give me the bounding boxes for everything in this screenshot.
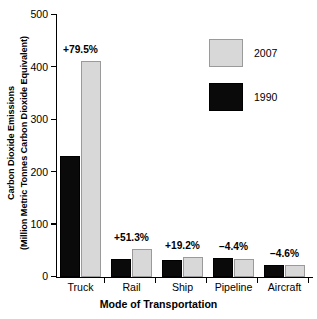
y-axis-tick: 400 <box>51 66 57 67</box>
percent-change-label: −4.6% <box>270 248 299 259</box>
bar-2007 <box>132 249 152 277</box>
x-axis-tick <box>104 277 105 283</box>
y-axis-tick: 100 <box>51 223 57 224</box>
y-axis-tick: 200 <box>51 171 57 172</box>
bar-1990 <box>264 265 284 277</box>
bar-2007 <box>285 265 305 277</box>
x-axis-tick <box>308 277 309 283</box>
y-axis-title-line2: (Million Metric Tonnes Carbon Dioxide Eq… <box>17 36 30 250</box>
bar-1990 <box>111 259 131 277</box>
bar-1990 <box>60 156 80 277</box>
bar-1990 <box>213 258 233 277</box>
percent-change-label: +79.5% <box>63 44 98 55</box>
y-axis-title-line1: Carbon Dioxide Emissions <box>5 36 18 250</box>
bar-2007 <box>183 257 203 277</box>
x-axis-category-label: Aircraft <box>268 281 302 293</box>
x-axis-title: Mode of Transportation <box>0 298 317 310</box>
bar-2007 <box>234 259 254 277</box>
bar-2007 <box>81 61 101 277</box>
y-axis-tick-label: 500 <box>30 8 48 20</box>
y-axis-tick-label: 100 <box>30 218 48 230</box>
x-axis-category-label: Pipeline <box>215 281 253 293</box>
legend-item-1990: 1990 <box>209 83 309 113</box>
y-axis-tick-label: 400 <box>30 61 48 73</box>
y-axis-tick: 300 <box>51 119 57 120</box>
x-axis-tick <box>206 277 207 283</box>
bar-1990 <box>162 260 182 277</box>
legend-item-2007: 2007 <box>209 39 309 69</box>
y-axis-title: Carbon Dioxide Emissions (Million Metric… <box>0 0 34 285</box>
percent-change-label: −4.4% <box>219 241 248 252</box>
percent-change-label: +51.3% <box>114 232 149 243</box>
y-axis-tick-label: 300 <box>30 113 48 125</box>
legend-swatch-2007 <box>209 39 243 67</box>
y-axis-tick: 500 <box>51 14 57 15</box>
legend: 2007 1990 <box>209 39 309 127</box>
x-axis-line <box>56 277 313 278</box>
x-axis-category-label: Ship <box>172 281 193 293</box>
legend-label-1990: 1990 <box>254 91 277 103</box>
co2-emissions-bar-chart: Carbon Dioxide Emissions (Million Metric… <box>0 0 317 319</box>
x-axis-tick <box>257 277 258 283</box>
y-axis-tick-label: 0 <box>42 270 48 282</box>
x-axis-category-label: Truck <box>67 281 93 293</box>
y-axis-line <box>56 14 57 277</box>
x-axis-tick <box>155 277 156 283</box>
legend-label-2007: 2007 <box>254 47 277 59</box>
legend-swatch-1990 <box>209 83 243 111</box>
y-axis-tick-label: 200 <box>30 166 48 178</box>
x-axis-category-label: Rail <box>122 281 140 293</box>
percent-change-label: +19.2% <box>165 240 200 251</box>
y-axis-tick: 0 <box>51 276 57 277</box>
